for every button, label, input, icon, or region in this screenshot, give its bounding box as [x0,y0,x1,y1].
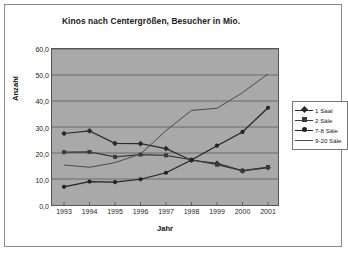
legend-item-0[interactable]: 1 Saal [295,105,345,115]
legend-label: 9-20 Säle [313,137,342,144]
data-point [61,131,67,137]
chart-title: Kinos nach Centergrößen, Besucher in Mio… [5,16,297,26]
data-point [88,150,92,154]
y-tick-label: 60,0 [9,46,49,53]
data-point [87,180,91,184]
data-point [62,150,66,154]
data-point [240,130,244,134]
legend-label: 2 Säle [313,117,333,124]
data-point [138,141,144,147]
legend-swatch-square-icon [295,116,313,125]
data-point [163,146,169,152]
x-axis-title: Jahr [51,224,279,233]
plot-area [51,48,279,206]
data-point [241,169,245,173]
data-point [215,163,219,167]
y-tick-label: 30,0 [9,124,49,131]
chart-frame: Kinos nach Centergrößen, Besucher in Mio… [4,4,342,247]
y-tick-label: 40,0 [9,98,49,105]
legend-swatch-circle-icon [295,126,313,135]
y-tick-label: 0,0 [9,203,49,210]
data-point [62,185,66,189]
data-point [266,165,270,169]
legend-label: 1 Saal [313,107,333,114]
data-point [189,158,193,162]
series-canvas [52,49,278,205]
x-tick-label: 2001 [248,208,288,215]
legend-item-3[interactable]: 9-20 Säle [295,135,345,145]
data-point [112,141,118,147]
y-tick-label: 10,0 [9,176,49,183]
data-point [138,177,142,181]
data-point [113,155,117,159]
y-axis-ticks: 0,010,020,030,040,050,060,0 [5,48,49,206]
data-point [87,128,93,134]
data-point [266,106,270,110]
legend-swatch-diamond-icon [295,106,313,115]
data-point [215,144,219,148]
legend-item-2[interactable]: 7-8 Säle [295,125,345,135]
legend-swatch-none-icon [295,136,313,145]
legend-item-1[interactable]: 2 Säle [295,115,345,125]
data-point [164,171,168,175]
x-axis-ticks: 199319941995199619971998199920002001 [51,208,279,222]
legend-label: 7-8 Säle [313,127,338,134]
y-tick-label: 20,0 [9,150,49,157]
chart-legend: 1 Saal2 Säle7-8 Säle9-20 Säle [292,101,348,150]
data-point [113,180,117,184]
data-point [164,153,168,157]
y-tick-label: 50,0 [9,72,49,79]
